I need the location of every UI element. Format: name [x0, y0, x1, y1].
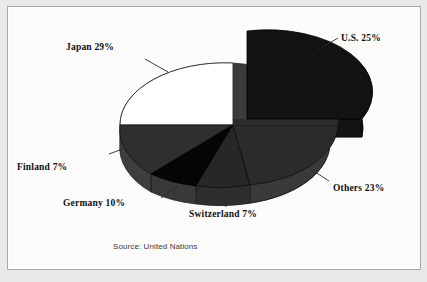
slice-others-upper-sliver — [233, 119, 338, 125]
label-japan: Japan 29% — [66, 42, 114, 52]
leader-line-japan — [145, 59, 168, 72]
chart-page: U.S. 25% Japan 29% Finland 7% Germany 10… — [0, 0, 427, 282]
label-others: Others 23% — [333, 183, 384, 193]
label-germany: Germany 10% — [63, 198, 125, 208]
label-finland: Finland 7% — [17, 162, 67, 172]
source-note: Source: United Nations — [113, 242, 197, 251]
label-us: U.S. 25% — [341, 33, 381, 43]
slice-japan[interactable] — [120, 63, 233, 125]
slice-us[interactable] — [247, 30, 373, 119]
slice-others[interactable] — [233, 125, 338, 185]
label-switzerland: Switzerland 7% — [189, 209, 257, 219]
